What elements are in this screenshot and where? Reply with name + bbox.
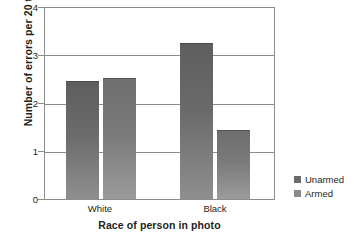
legend-swatch-icon-unarmed [294, 176, 301, 183]
bar-white-unarmed [66, 81, 99, 199]
bar-white-armed [103, 78, 136, 199]
plot-area [44, 7, 275, 200]
legend-label-unarmed: Unarmed [305, 174, 344, 185]
gridline-3 [45, 55, 274, 56]
x-category-label-black: Black [193, 203, 237, 214]
legend-item-unarmed: Unarmed [294, 172, 354, 186]
legend-item-armed: Armed [294, 186, 354, 200]
y-tick-label-1: 1 [12, 147, 38, 157]
bar-black-armed [217, 130, 250, 199]
y-tick-label-3: 3 [12, 51, 38, 61]
y-tick-label-2: 2 [12, 99, 38, 109]
chart-legend: Unarmed Armed [294, 172, 354, 200]
y-axis-title: Number of errors per 20 trials [22, 0, 34, 141]
y-tick-label-4: 4 [12, 3, 38, 13]
bar-black-unarmed [180, 43, 213, 199]
legend-label-armed: Armed [305, 188, 333, 199]
x-axis-title: Race of person in photo [44, 219, 275, 231]
x-category-label-white: White [78, 203, 122, 214]
y-tick-label-0: 0 [12, 195, 38, 205]
bar-chart-figure: Number of errors per 20 trials 4 3 2 1 0… [0, 0, 354, 232]
legend-swatch-icon-armed [294, 190, 301, 197]
